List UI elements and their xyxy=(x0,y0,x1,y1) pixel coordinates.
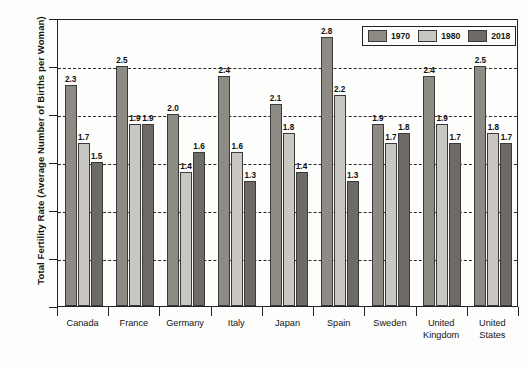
bar-group: 2.82.21.3 xyxy=(320,20,360,306)
bar-value-label: 2.0 xyxy=(167,104,178,113)
bar[interactable] xyxy=(270,104,282,306)
x-axis-category-word: United xyxy=(479,318,506,328)
bar-group: 2.31.71.5 xyxy=(64,20,104,306)
y-axis-tick-mark xyxy=(49,115,57,116)
bar[interactable] xyxy=(283,133,295,306)
x-axis-category-label: UnitedStates xyxy=(457,318,527,341)
x-axis-tick-mark xyxy=(518,307,519,316)
bar-slot: 1.6 xyxy=(231,20,243,306)
bar-slot: 1.9 xyxy=(372,20,384,306)
bar[interactable] xyxy=(449,143,461,306)
bar-slot: 1.3 xyxy=(244,20,256,306)
fertility-rate-bar-chart: Total Fertility Rate (Average Number of … xyxy=(0,0,530,370)
bar[interactable] xyxy=(296,172,308,306)
legend-item[interactable]: 1970 xyxy=(368,30,410,42)
bar-slot: 1.8 xyxy=(487,20,499,306)
bar-value-label: 1.8 xyxy=(283,123,294,132)
legend-swatch-icon xyxy=(418,30,437,42)
bar-slot: 1.8 xyxy=(283,20,295,306)
bar-value-label: 2.1 xyxy=(270,94,281,103)
x-axis-tick-mark xyxy=(364,307,365,316)
bar-slot: 2.4 xyxy=(218,20,230,306)
bar-value-label: 1.7 xyxy=(385,133,396,142)
bar-slot: 2.8 xyxy=(321,20,333,306)
y-axis-tick-mark xyxy=(49,19,57,20)
bar-slot: 1.9 xyxy=(129,20,141,306)
bar[interactable] xyxy=(500,143,512,306)
bar[interactable] xyxy=(385,143,397,306)
bar-group: 2.51.91.9 xyxy=(115,20,155,306)
bar[interactable] xyxy=(218,76,230,306)
bar-value-label: 1.6 xyxy=(193,142,204,151)
bar[interactable] xyxy=(487,133,499,306)
bar[interactable] xyxy=(347,181,359,306)
bar[interactable] xyxy=(423,76,435,306)
bar-value-label: 2.5 xyxy=(475,56,486,65)
bar[interactable] xyxy=(91,162,103,306)
bar[interactable] xyxy=(129,124,141,306)
x-axis-tick-mark xyxy=(211,307,212,316)
bar[interactable] xyxy=(321,37,333,306)
bar-group: 2.01.41.6 xyxy=(166,20,206,306)
bar-value-label: 2.4 xyxy=(219,66,230,75)
bar-group: 2.41.91.7 xyxy=(422,20,462,306)
x-axis-tick-mark xyxy=(467,307,468,316)
bar[interactable] xyxy=(372,124,384,306)
bar-slot: 1.7 xyxy=(500,20,512,306)
bar[interactable] xyxy=(398,133,410,306)
y-axis-tick-mark xyxy=(49,163,57,164)
bar[interactable] xyxy=(474,66,486,306)
bar[interactable] xyxy=(142,124,154,306)
y-axis-tick-mark xyxy=(49,67,57,68)
bar-slot: 2.5 xyxy=(116,20,128,306)
bar[interactable] xyxy=(180,172,192,306)
bar-group: 1.91.71.8 xyxy=(371,20,411,306)
y-axis-tick-mark xyxy=(49,211,57,212)
bar-value-label: 1.6 xyxy=(232,142,243,151)
bar-slot: 2.1 xyxy=(270,20,282,306)
plot-frame: 2.31.71.52.51.91.92.01.41.62.41.61.32.11… xyxy=(57,19,518,307)
bar-slot: 1.4 xyxy=(180,20,192,306)
x-axis-tick-mark xyxy=(57,307,58,316)
bar-value-label: 1.7 xyxy=(449,133,460,142)
x-axis-tick-mark xyxy=(416,307,417,316)
x-axis-tick-mark xyxy=(313,307,314,316)
bar-value-label: 1.4 xyxy=(296,162,307,171)
bar-slot: 1.3 xyxy=(347,20,359,306)
bar[interactable] xyxy=(436,124,448,306)
bar-value-label: 1.9 xyxy=(142,114,153,123)
bar[interactable] xyxy=(65,85,77,306)
bar-value-label: 2.5 xyxy=(116,56,127,65)
bar[interactable] xyxy=(167,114,179,306)
bar-group: 2.41.61.3 xyxy=(217,20,257,306)
bar-slot: 1.9 xyxy=(436,20,448,306)
legend-item[interactable]: 2018 xyxy=(468,30,510,42)
bar[interactable] xyxy=(116,66,128,306)
bar-slot: 1.7 xyxy=(385,20,397,306)
bar-slot: 2.2 xyxy=(334,20,346,306)
legend-swatch-icon xyxy=(368,30,387,42)
legend-label: 1980 xyxy=(441,31,460,41)
bar[interactable] xyxy=(334,95,346,306)
x-axis-category-word: Germany xyxy=(166,318,204,328)
y-axis-tick-mark xyxy=(49,307,57,308)
y-axis-title: Total Fertility Rate (Average Number of … xyxy=(35,0,46,311)
bar[interactable] xyxy=(231,152,243,306)
y-axis-tick-mark xyxy=(49,259,57,260)
legend-item[interactable]: 1980 xyxy=(418,30,460,42)
bar-slot: 1.6 xyxy=(193,20,205,306)
bar-slot: 2.5 xyxy=(474,20,486,306)
bar-group: 2.51.81.7 xyxy=(473,20,513,306)
bar[interactable] xyxy=(244,181,256,306)
bar[interactable] xyxy=(193,152,205,306)
bar-value-label: 1.8 xyxy=(488,123,499,132)
plot-area: 2.31.71.52.51.91.92.01.41.62.41.61.32.11… xyxy=(58,20,517,306)
x-axis-category-word: Sweden xyxy=(373,318,406,328)
legend-label: 1970 xyxy=(391,31,410,41)
bar-value-label: 1.4 xyxy=(180,162,191,171)
legend-swatch-icon xyxy=(468,30,487,42)
bar-value-label: 1.8 xyxy=(398,123,409,132)
bar[interactable] xyxy=(78,143,90,306)
x-axis-category-word: Spain xyxy=(327,318,351,328)
bar-slot: 1.7 xyxy=(78,20,90,306)
